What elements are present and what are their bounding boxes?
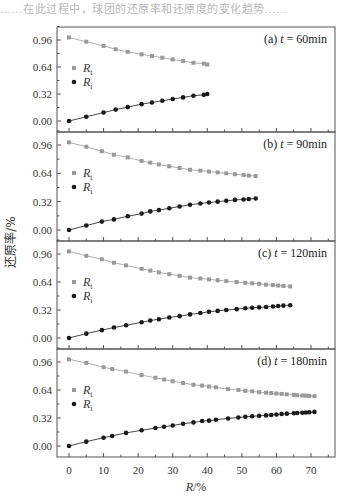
x-tick-label: 40 [202,464,214,476]
data-point [140,52,144,56]
y-tick-label: 0.32 [33,88,52,100]
data-point [67,35,71,39]
data-point [250,414,255,419]
data-point [233,172,237,176]
data-point [112,325,117,330]
data-point [207,277,211,281]
legend-label: Ri [82,75,93,91]
data-point [150,100,155,105]
data-point [191,420,196,425]
data-point [170,423,175,428]
data-point [177,314,182,319]
data-point [254,174,258,178]
x-tick-label: 30 [167,464,179,476]
data-point [126,155,130,159]
data-point [279,412,284,417]
data-point [271,283,275,287]
figure: 0.000.320.640.96(a) t = 60minRtRi0.000.3… [0,0,354,500]
data-point [157,162,161,166]
data-point [198,311,203,316]
data-point [216,170,220,174]
data-point [188,276,192,280]
y-tick-label: 0.64 [33,61,53,73]
data-point [191,93,196,98]
data-point [160,56,164,60]
y-tick-label: 0.96 [33,34,53,46]
data-point [250,306,255,311]
data-point [235,280,239,284]
y-tick-label: 0.64 [33,276,53,288]
legend-square-icon [72,388,76,392]
data-point [247,174,251,178]
data-point [207,385,211,389]
data-point [110,367,114,371]
panel-c: 0.000.320.640.96(c) t = 120minRtRi [33,240,335,349]
data-point [285,392,289,396]
data-point [274,412,279,417]
series-line-R_i [69,412,314,446]
data-point [110,434,115,439]
data-point [243,306,248,311]
data-point [181,95,186,100]
data-point [67,228,72,233]
data-point [157,270,161,274]
data-point [162,424,167,429]
data-point [178,274,182,278]
data-point [295,393,299,397]
data-point [84,254,88,258]
data-point [102,44,106,48]
data-point [216,278,220,282]
data-point [167,315,172,320]
y-tick-label: 0.64 [33,384,53,396]
data-point [191,383,195,387]
data-point [124,263,128,267]
data-point [177,204,182,209]
y-tick-label: 0.00 [33,440,53,452]
data-point [205,92,210,97]
data-point [280,392,284,396]
data-point [100,257,104,261]
series-line-R_i [69,305,290,338]
data-point [288,284,292,288]
data-point [276,284,280,288]
legend-square-icon [72,171,76,175]
legend-label: Ri [82,289,93,305]
y-axis-label: 还原率/% [3,216,18,267]
data-point [148,318,153,323]
data-point [243,389,247,393]
data-point [84,361,88,365]
data-point [200,419,205,424]
data-point [250,281,254,285]
data-point [285,411,290,416]
data-point [198,201,203,206]
data-point [295,411,300,416]
data-point [157,208,162,213]
data-point [236,388,240,392]
series-line-R_i [69,199,256,230]
data-point [148,269,152,273]
data-point [300,393,304,397]
x-tick-label: 20 [133,464,145,476]
panel-title: (a) t = 60min [264,32,327,46]
panel-a: 0.000.320.640.96(a) t = 60minRtRi [33,27,335,133]
data-point [171,57,175,61]
data-point [207,200,212,205]
panel-d: 0.000.320.640.96(d) t = 180minRtRi [33,348,335,457]
data-point [257,390,261,394]
data-point [288,303,293,308]
data-point [253,196,258,201]
data-point [84,439,89,444]
data-point [207,170,211,174]
data-point [191,61,195,65]
data-point [205,62,209,66]
data-point [67,119,72,124]
data-point [181,381,185,385]
data-point [198,277,202,281]
data-point [307,394,311,398]
data-point [125,105,130,110]
data-point [112,153,116,157]
data-point [139,102,144,107]
y-tick-label: 0.32 [33,412,52,424]
data-point [246,197,251,202]
data-point [276,304,281,309]
